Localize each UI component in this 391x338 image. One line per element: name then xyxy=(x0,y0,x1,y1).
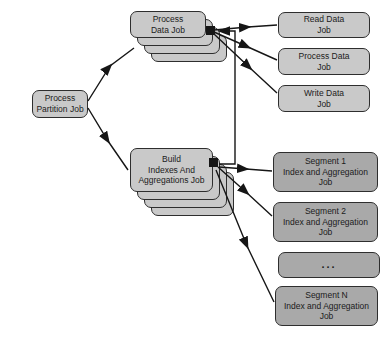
segment-n-index-aggregation-job: Segment N Index and Aggregation Job xyxy=(275,286,378,326)
arrow-partition-to-process-data xyxy=(88,48,134,101)
build-indexes-aggregations-job-stack: Build Indexes And Aggregations Job xyxy=(130,148,213,192)
process-data-job: Process Data Job xyxy=(278,48,370,75)
process-partition-job: Process Partition Job xyxy=(32,90,88,118)
job-architecture-diagram: Process Data Job Build Indexes And Aggre… xyxy=(0,0,391,338)
process-data-job-stack: Process Data Job xyxy=(130,11,206,38)
read-data-job: Read Data Job xyxy=(278,12,370,38)
segment-ellipsis-box: ... xyxy=(278,252,380,278)
arrow-processdata-to-readdata xyxy=(214,25,277,30)
arrow-partition-to-build-indexes xyxy=(88,108,128,170)
segment-1-index-aggregation-job: Segment 1 Index and Aggregation Job xyxy=(273,152,378,192)
segment-2-index-aggregation-job: Segment 2 Index and Aggregation Job xyxy=(273,202,378,242)
write-data-job: Write Data Job xyxy=(278,85,370,112)
